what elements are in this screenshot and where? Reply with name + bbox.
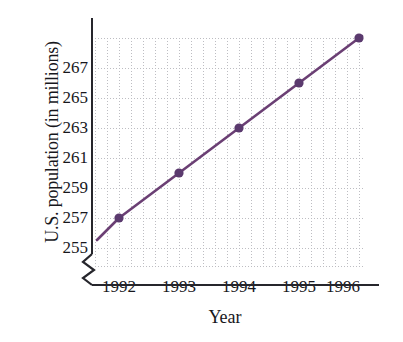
data-point-1993 xyxy=(174,168,183,177)
data-line xyxy=(97,36,362,240)
plot-area xyxy=(0,0,403,342)
chart-figure: U.S. population (in millions) Year 267 2… xyxy=(0,0,403,342)
data-point-1994 xyxy=(234,123,243,132)
data-point-1996 xyxy=(354,33,363,42)
data-point-1992 xyxy=(114,213,123,222)
y-axis-break-icon xyxy=(83,254,94,285)
grid-vertical xyxy=(95,38,359,266)
data-point-1995 xyxy=(294,78,303,87)
